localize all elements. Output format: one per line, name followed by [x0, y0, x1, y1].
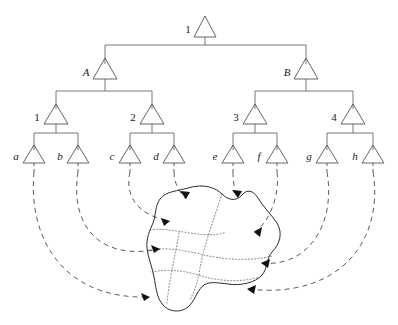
region-partition-5	[167, 233, 179, 303]
mapping-arc-c	[129, 172, 170, 221]
node-label-B: B	[284, 66, 291, 78]
region-boundary	[147, 186, 280, 311]
tree-leaf-a[interactable]: a	[13, 145, 45, 172]
tree-region-diagram: 1 A B 1 2 3 4 a b c	[0, 0, 398, 325]
tree-leaf-f[interactable]: f	[257, 145, 288, 172]
node-label-4: 4	[331, 111, 337, 123]
leaf-label-f: f	[257, 150, 262, 162]
tree-leaf-d[interactable]: d	[153, 145, 185, 172]
region-partition-2	[147, 249, 272, 260]
tree-leaf-b[interactable]: b	[57, 145, 89, 172]
leaf-label-h: h	[352, 150, 358, 162]
arrowhead-b	[151, 245, 160, 253]
node-label-A: A	[82, 66, 90, 78]
node-label-3: 3	[233, 111, 239, 123]
leaf-label-a: a	[13, 150, 19, 162]
leaf-label-b: b	[57, 150, 63, 162]
tree-node-A[interactable]: A	[82, 58, 117, 79]
node-label-2: 2	[130, 111, 136, 123]
tree-leaf-c[interactable]: c	[110, 145, 141, 172]
node-label-root: 1	[185, 23, 191, 35]
tree-leaf-h[interactable]: h	[352, 145, 384, 172]
arrowhead-f	[254, 227, 262, 237]
leaf-label-c: c	[110, 150, 115, 162]
leaf-label-g: g	[306, 150, 312, 162]
tree-leaf-e[interactable]: e	[213, 145, 244, 172]
tree-node-B[interactable]: B	[284, 58, 318, 79]
tree-node-1[interactable]: 1	[34, 104, 68, 124]
region-partition-1	[150, 229, 226, 234]
mapping-arc-g	[261, 172, 329, 263]
partitioned-region[interactable]	[147, 186, 280, 311]
tree-node-root[interactable]: 1	[185, 16, 216, 37]
arrowhead-c	[161, 218, 170, 226]
mapping-arc-a	[33, 172, 150, 297]
leaf-label-d: d	[153, 150, 159, 162]
region-partition-3	[152, 270, 260, 280]
leaf-label-e: e	[213, 150, 218, 162]
arrowhead-h	[247, 285, 256, 294]
tree-node-3[interactable]: 3	[233, 104, 267, 124]
node-label-1: 1	[34, 111, 40, 123]
arrowhead-g	[261, 259, 270, 268]
tree-node-4[interactable]: 4	[331, 104, 365, 124]
mapping-arc-h	[247, 172, 375, 290]
tree-leaf-g[interactable]: g	[306, 145, 338, 172]
tree-node-2[interactable]: 2	[130, 104, 164, 124]
tree-edges	[34, 37, 373, 150]
mapping-arc-f	[254, 172, 277, 232]
